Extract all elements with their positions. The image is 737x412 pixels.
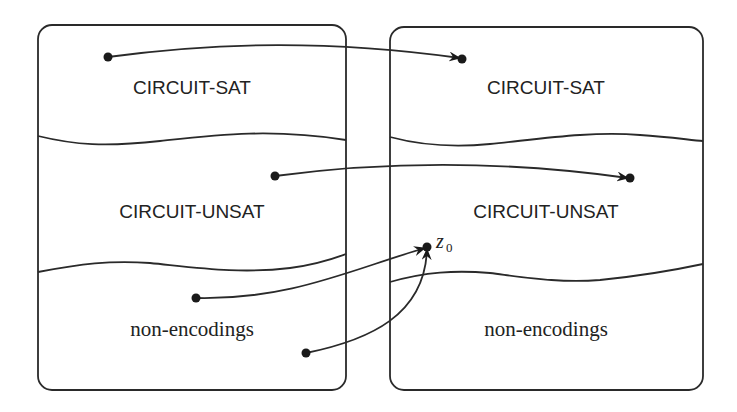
z0-symbol: z — [435, 230, 444, 252]
point-left-unsat — [271, 172, 280, 181]
left-label-non-encodings: non-encodings — [130, 317, 254, 341]
right-box: CIRCUIT-SAT CIRCUIT-UNSAT non-encodings — [390, 27, 703, 390]
right-label-circuit-sat: CIRCUIT-SAT — [487, 77, 605, 98]
z0-label: z 0 — [435, 230, 453, 255]
arrow-sat-to-sat — [108, 45, 460, 58]
point-z0 — [423, 243, 432, 252]
point-right-unsat — [626, 174, 635, 183]
right-label-circuit-unsat: CIRCUIT-UNSAT — [473, 201, 619, 222]
reduction-diagram: CIRCUIT-SAT CIRCUIT-UNSAT non-encodings … — [0, 0, 737, 412]
right-divider-top — [390, 134, 703, 146]
left-label-circuit-sat: CIRCUIT-SAT — [133, 77, 251, 98]
left-box: CIRCUIT-SAT CIRCUIT-UNSAT non-encodings — [38, 25, 346, 390]
z0-subscript: 0 — [446, 240, 453, 255]
point-left-nonenc-1 — [192, 294, 201, 303]
point-left-sat — [104, 53, 113, 62]
left-label-circuit-unsat: CIRCUIT-UNSAT — [119, 201, 265, 222]
right-divider-bottom — [390, 264, 703, 282]
left-divider-top — [38, 133, 346, 144]
left-divider-bottom — [38, 254, 346, 272]
arrow-unsat-to-unsat — [275, 165, 628, 178]
point-left-nonenc-2 — [302, 349, 311, 358]
right-label-non-encodings: non-encodings — [484, 317, 608, 341]
point-right-sat — [458, 55, 467, 64]
arrow-nonenc2-to-z0 — [306, 249, 427, 353]
